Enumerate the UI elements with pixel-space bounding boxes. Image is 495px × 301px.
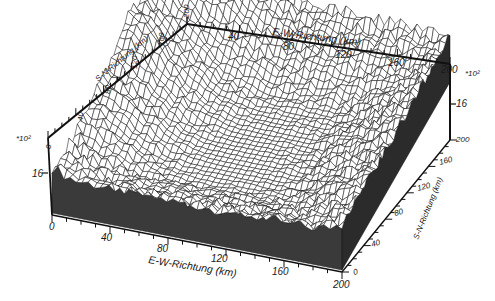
left-sn-tick-120: 120: [130, 55, 139, 69]
bottom-tick-200: 200: [332, 279, 350, 290]
top-tick-120: 120: [335, 49, 352, 60]
right-sn-tick-160: 160: [438, 155, 454, 167]
bottom-tick-80: 80: [157, 243, 169, 254]
terrain-surface-figure: 40 80 120 160 200 E-W-Richtung (km) *10²…: [0, 0, 495, 301]
top-tick-160: 160: [388, 57, 405, 68]
right-z-tick-200: 200: [455, 135, 470, 144]
right-z-tick-16: 16: [456, 98, 468, 109]
left-z-tick-16: 16: [32, 168, 44, 179]
bottom-tick-160: 160: [272, 266, 289, 277]
left-sn-tick-160: 160: [157, 32, 166, 46]
top-tick-200: 200: [440, 64, 458, 75]
right-sn-tick-80: 80: [393, 207, 404, 218]
top-tick-40: 40: [228, 31, 240, 42]
right-multiplier: *10²: [465, 69, 480, 78]
left-sn-tick-80: 80: [103, 85, 112, 94]
surface-plot: 40 80 120 160 200 E-W-Richtung (km) *10²…: [0, 0, 495, 301]
right-sn-tick-40: 40: [370, 238, 381, 249]
left-sn-tick-40: 40: [76, 112, 85, 121]
bottom-tick-40: 40: [101, 232, 113, 243]
left-sn-tick-200: 200: [182, 4, 191, 19]
top-tick-80: 80: [283, 41, 295, 52]
bottom-tick-0: 0: [49, 221, 55, 232]
left-multiplier: *10²: [16, 134, 31, 143]
right-sn-tick-0: 0: [352, 267, 359, 277]
left-z-tick-0: 0: [44, 144, 53, 149]
